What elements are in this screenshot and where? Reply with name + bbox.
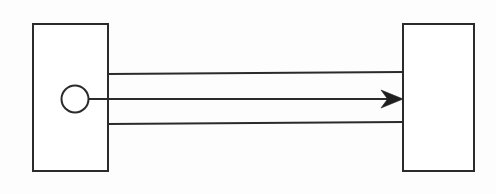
diagram-svg: [0, 0, 496, 194]
circle-node: [62, 86, 89, 113]
right-rectangle: [403, 24, 474, 171]
right-rectangle-fill: [403, 24, 474, 171]
diagram-canvas: [0, 0, 496, 194]
